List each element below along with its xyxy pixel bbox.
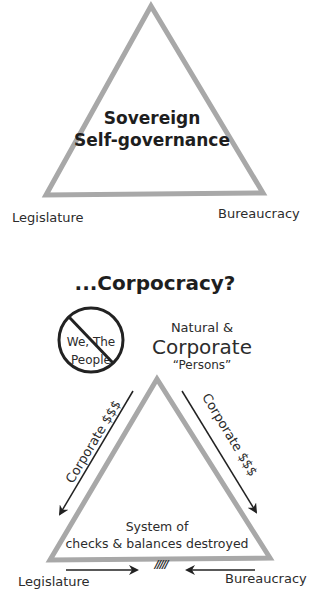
system-of-label: System of	[126, 519, 189, 534]
persons-label: “Persons”	[173, 358, 232, 372]
self-governance-label: Self-governance	[74, 130, 230, 150]
prohibited-we-the-people-icon: We, The People	[59, 308, 123, 372]
top-bureaucracy-label: Bureaucracy	[218, 206, 300, 221]
left-corporate-money-label: Corporate $$$	[63, 398, 124, 486]
corpocracy-diagram: Sovereign Self-governance Legislature Bu…	[0, 0, 324, 595]
left-money-arrow	[60, 391, 133, 514]
corporate-label: Corporate	[152, 335, 252, 359]
bottom-bureaucracy-label: Bureaucracy	[225, 571, 307, 586]
top-legislature-label: Legislature	[12, 210, 84, 225]
broken-hash-mark: /////	[153, 558, 170, 571]
corpocracy-title: ...Corpocracy?	[75, 271, 236, 295]
checks-balances-destroyed-label: checks & balances destroyed	[65, 536, 248, 551]
sovereign-label: Sovereign	[104, 108, 201, 128]
bottom-legislature-label: Legislature	[18, 574, 90, 589]
natural-label: Natural &	[171, 320, 233, 335]
sovereign-triangle	[46, 6, 263, 195]
